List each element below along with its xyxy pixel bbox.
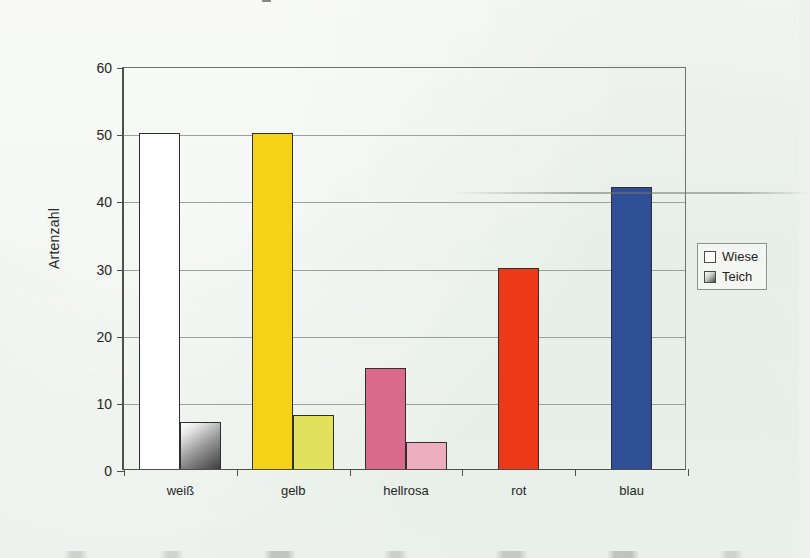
y-tick-mark	[117, 202, 124, 203]
bar-teich-hellrosa	[406, 442, 447, 469]
bar-group	[575, 68, 688, 469]
y-tick-mark	[117, 68, 124, 69]
x-tick-label: weiß	[167, 483, 194, 498]
y-tick-mark	[117, 337, 124, 338]
y-tick-label: 50	[96, 127, 112, 143]
x-tick-mark	[350, 469, 351, 476]
bar-group	[237, 68, 350, 469]
bar-group	[350, 68, 463, 469]
cropped-text-fragment-top	[262, 0, 271, 2]
bar-wiese-rot	[498, 268, 539, 470]
bar-wiese-weiß	[139, 133, 180, 469]
bar-teich-weiß	[180, 422, 221, 469]
bar-teich-gelb	[293, 415, 334, 469]
y-tick-label: 0	[104, 463, 112, 479]
y-tick-label: 30	[96, 262, 112, 278]
x-tick-mark	[462, 469, 463, 476]
legend-label: Teich	[722, 269, 752, 284]
y-tick-mark	[117, 135, 124, 136]
legend-item: Teich	[704, 269, 758, 284]
bar-wiese-blau	[611, 187, 652, 469]
y-tick-mark	[117, 404, 124, 405]
y-tick-label: 40	[96, 194, 112, 210]
x-tick-label: gelb	[281, 483, 306, 498]
legend-item: Wiese	[704, 249, 758, 264]
x-tick-mark	[575, 469, 576, 476]
x-tick-label: hellrosa	[383, 483, 429, 498]
cropped-text-fragment-bottom	[0, 551, 799, 558]
y-tick-label: 60	[96, 60, 112, 76]
plot-area: 0102030405060 weißgelbhellrosarotblau	[122, 67, 686, 470]
x-tick-mark	[237, 469, 238, 476]
x-tick-label: rot	[511, 483, 526, 498]
x-tick-label: blau	[619, 483, 644, 498]
y-tick-mark	[117, 270, 124, 271]
y-axis-title: Artenzahl	[46, 208, 62, 269]
y-tick-label: 10	[96, 396, 112, 412]
x-tick-mark	[124, 469, 125, 476]
x-tick-mark	[688, 469, 689, 476]
y-tick-label: 20	[96, 329, 112, 345]
bar-wiese-gelb	[252, 133, 293, 469]
legend-swatch-wiese	[704, 251, 716, 263]
bar-group	[124, 68, 237, 469]
legend-swatch-teich	[704, 271, 716, 283]
legend-label: Wiese	[722, 249, 758, 264]
chart-legend: WieseTeich	[697, 243, 767, 290]
bar-group	[462, 68, 575, 469]
bar-wiese-hellrosa	[365, 368, 406, 469]
y-tick-mark	[117, 471, 124, 472]
